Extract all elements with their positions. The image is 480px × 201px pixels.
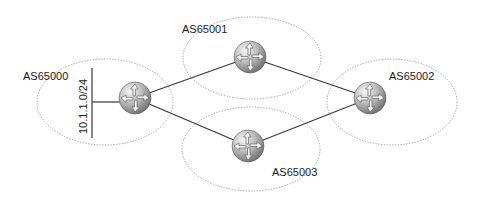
router-icon-as65002 (354, 82, 386, 114)
as65000-label: AS65000 (23, 71, 68, 82)
as65001-label: AS65001 (182, 24, 227, 35)
router-icon-as65000 (119, 82, 151, 114)
router-icon-as65001 (234, 41, 266, 73)
link-as65000-as65003 (135, 98, 248, 146)
link-as65003-as65002 (248, 98, 370, 146)
as65003-label: AS65003 (272, 167, 317, 178)
link-as65000-as65001 (135, 57, 250, 98)
network-prefix-label: 10.1.1.0/24 (78, 79, 89, 134)
as65002-label: AS65002 (389, 71, 434, 82)
link-as65001-as65002 (250, 57, 370, 98)
router-icon-as65003 (232, 130, 264, 162)
bgp-topology-diagram (0, 0, 480, 201)
